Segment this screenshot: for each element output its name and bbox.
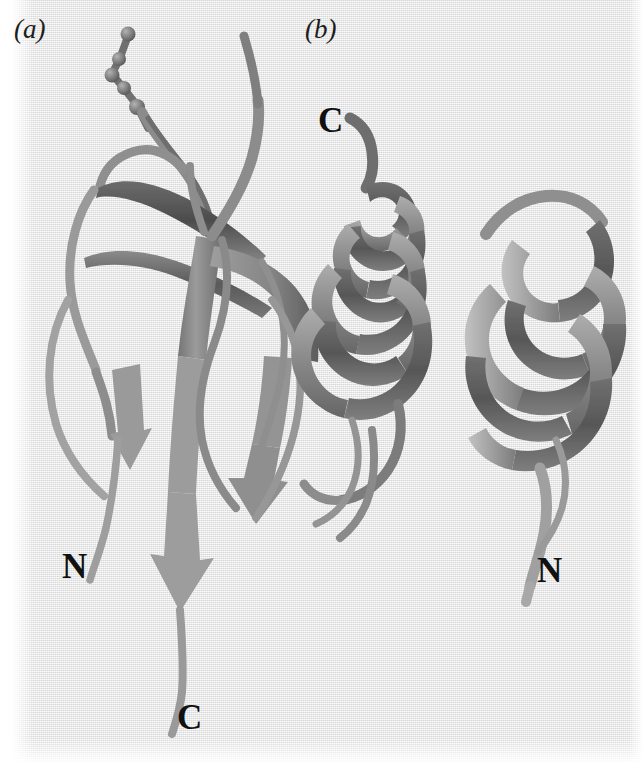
panel-b-structure — [291, 118, 626, 602]
panel-b-c-terminus-label: C — [318, 103, 343, 138]
panel-b-n-terminus-label: N — [537, 553, 562, 588]
panel-label-b: (b) — [305, 16, 336, 43]
panel-a-n-terminus-label: N — [62, 549, 87, 584]
panel-label-a: (a) — [14, 16, 45, 43]
alpha-helix-right — [465, 196, 626, 602]
alpha-helix-left — [291, 118, 432, 538]
panel-a-c-terminus-label: C — [177, 700, 202, 735]
figure-panel-container: (a) (b) N C C N — [0, 0, 643, 764]
